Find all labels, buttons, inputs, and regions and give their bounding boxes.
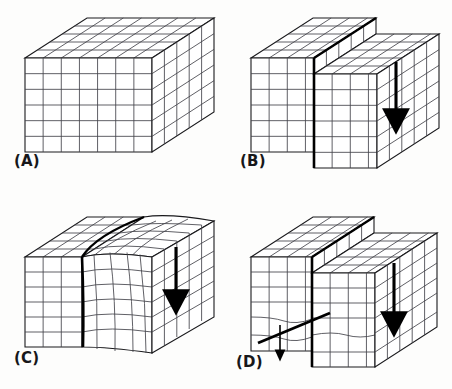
panel-a: (A) [14,18,214,170]
panel-a-block [25,18,214,152]
panel-a-label: (A) [14,152,40,170]
panel-c: (C) [14,216,214,367]
block-diagram-figure: (A) [0,0,452,389]
figure-canvas: (A) [0,0,452,389]
panel-d-label: (D) [236,353,263,371]
panel-b: (B) [240,18,439,170]
panel-a-front-face [25,58,152,152]
panel-c-label: (C) [14,349,39,367]
panel-d: (D) [236,217,437,371]
panel-b-label: (B) [240,152,266,170]
